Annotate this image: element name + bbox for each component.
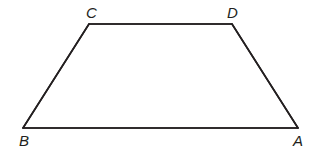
vertex-label-c: C — [86, 4, 97, 21]
vertex-label-d: D — [227, 4, 238, 21]
trapezoid-shape — [23, 24, 298, 128]
trapezoid-diagram: C D B A — [0, 0, 315, 153]
vertex-label-a: A — [292, 132, 303, 149]
edge-da — [232, 24, 298, 128]
edge-bc — [23, 24, 89, 128]
vertex-label-b: B — [19, 132, 29, 149]
